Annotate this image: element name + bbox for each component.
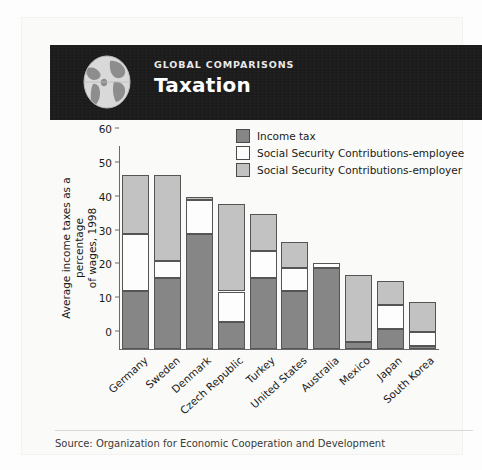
bar-segment[interactable] [377, 305, 404, 329]
bar-segment[interactable] [154, 261, 181, 278]
banner-title: Taxation [154, 73, 294, 97]
y-axis-tick-label: 50 [99, 156, 112, 168]
y-axis-title-line2: of wages, 1998 [86, 146, 99, 350]
chart-page: GLOBAL COMPARISONS Taxation Income tax S… [0, 0, 482, 470]
bar-group[interactable] [218, 146, 245, 349]
legend-swatch-income-tax [236, 129, 250, 143]
y-axis-tick: 30 [99, 219, 120, 238]
y-axis-tick-label: 60 [99, 123, 112, 135]
banner-kicker: GLOBAL COMPARISONS [154, 59, 294, 70]
y-axis-title-line1: Average income taxes as a percentage [60, 146, 86, 350]
y-axis-tick-mark [115, 331, 119, 332]
bar-segment[interactable] [122, 175, 149, 234]
y-axis-tick: 20 [99, 253, 120, 272]
y-axis-tick-label: 40 [99, 190, 112, 202]
bar-group[interactable] [345, 146, 372, 349]
bar-segment[interactable] [313, 263, 340, 268]
bar-segment[interactable] [186, 200, 213, 234]
y-axis-tick: 50 [99, 151, 120, 170]
y-axis-tick: 0 [105, 321, 120, 340]
legend-label: Income tax [257, 130, 316, 142]
bar-segment[interactable] [313, 268, 340, 349]
bar-segment[interactable] [122, 291, 149, 349]
bar-segment[interactable] [250, 214, 277, 251]
banner-text-block: GLOBAL COMPARISONS Taxation [154, 59, 294, 97]
y-axis-title: Average income taxes as a percentage of … [60, 146, 74, 350]
x-axis-line [119, 349, 439, 350]
bar-segment[interactable] [281, 242, 308, 267]
bar-group[interactable] [186, 146, 213, 349]
bar-segment[interactable] [154, 175, 181, 261]
x-axis-label: Germany [106, 354, 150, 395]
y-axis-tick-mark [115, 263, 119, 264]
y-axis-tick-mark [115, 229, 119, 230]
y-axis-tick-label: 30 [99, 224, 112, 236]
bar-segment[interactable] [250, 251, 277, 278]
y-axis-tick: 60 [99, 118, 120, 137]
plot-area: 0102030405060 [120, 146, 438, 349]
y-axis-tick-mark [115, 297, 119, 298]
bar-segment[interactable] [281, 268, 308, 292]
x-axis-label: Mexico [337, 354, 372, 387]
bar-group[interactable] [281, 146, 308, 349]
bar-segment[interactable] [186, 234, 213, 349]
bar-group[interactable] [122, 146, 149, 349]
globe-icon [80, 55, 134, 109]
bar-group[interactable] [250, 146, 277, 349]
bar-segment[interactable] [218, 292, 245, 322]
bar-segment[interactable] [218, 322, 245, 349]
bar-segment[interactable] [186, 197, 213, 200]
bar-segment[interactable] [409, 302, 436, 332]
bar-group[interactable] [313, 146, 340, 349]
bar-segment[interactable] [345, 275, 372, 343]
y-axis-tick-label: 20 [99, 258, 112, 270]
bar-segment[interactable] [250, 278, 277, 349]
legend-item: Income tax [236, 128, 464, 143]
bar-segment[interactable] [409, 346, 436, 349]
bar-group[interactable] [377, 146, 404, 349]
source-note: Source: Organization for Economic Cooper… [55, 438, 385, 449]
y-axis-tick-mark [115, 128, 119, 129]
chart-card: GLOBAL COMPARISONS Taxation Income tax S… [22, 18, 462, 454]
bar-segment[interactable] [345, 342, 372, 349]
bar-segment[interactable] [377, 329, 404, 349]
bar-segment[interactable] [218, 204, 245, 292]
bar-segment[interactable] [122, 234, 149, 292]
footer-divider [55, 430, 473, 431]
header-banner: GLOBAL COMPARISONS Taxation [50, 45, 482, 120]
bar-segment[interactable] [377, 281, 404, 305]
bar-segment[interactable] [154, 278, 181, 349]
y-axis-tick-mark [115, 161, 119, 162]
bar-group[interactable] [154, 146, 181, 349]
bar-segment[interactable] [409, 332, 436, 346]
y-axis-tick-label: 0 [105, 326, 112, 338]
bar-segment[interactable] [281, 291, 308, 349]
y-axis-tick: 10 [99, 287, 120, 306]
y-axis-tick-mark [115, 195, 119, 196]
y-axis-tick: 40 [99, 185, 120, 204]
y-axis-tick-label: 10 [99, 292, 112, 304]
bar-group[interactable] [409, 146, 436, 349]
